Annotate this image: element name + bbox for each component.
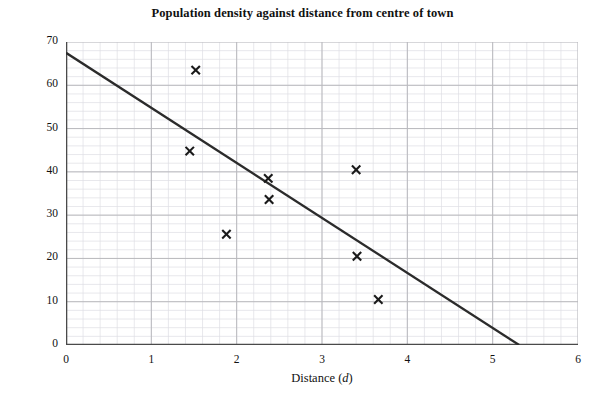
data-layer bbox=[66, 42, 578, 345]
data-point bbox=[222, 230, 230, 238]
x-tick-label: 0 bbox=[53, 353, 79, 365]
y-tick-label: 30 bbox=[32, 207, 58, 219]
data-point bbox=[265, 195, 273, 203]
x-axis-title-paren-close: ) bbox=[349, 371, 353, 385]
best-fit-line bbox=[66, 53, 519, 345]
chart-figure: Population density against distance from… bbox=[0, 0, 605, 404]
data-point bbox=[264, 174, 272, 182]
data-point bbox=[186, 147, 194, 155]
x-tick-label: 5 bbox=[480, 353, 506, 365]
y-tick-label: 40 bbox=[32, 164, 58, 176]
x-tick-label: 2 bbox=[224, 353, 250, 365]
x-tick-label: 6 bbox=[565, 353, 591, 365]
x-tick-label: 1 bbox=[138, 353, 164, 365]
data-point bbox=[192, 66, 200, 74]
x-tick-label: 4 bbox=[394, 353, 420, 365]
chart-title: Population density against distance from… bbox=[0, 6, 605, 21]
x-tick-label: 3 bbox=[309, 353, 335, 365]
y-tick-label: 50 bbox=[32, 121, 58, 133]
data-point bbox=[353, 252, 361, 260]
x-axis-title-text: Distance bbox=[291, 371, 335, 385]
y-tick-label: 70 bbox=[32, 34, 58, 46]
y-tick-label: 20 bbox=[32, 250, 58, 262]
y-tick-label: 10 bbox=[32, 294, 58, 306]
data-point bbox=[374, 295, 382, 303]
data-point bbox=[352, 165, 360, 173]
y-tick-label: 0 bbox=[32, 337, 58, 349]
plot-area bbox=[66, 42, 578, 345]
y-tick-label: 60 bbox=[32, 77, 58, 89]
x-axis-title: Distance (d) bbox=[66, 371, 578, 386]
